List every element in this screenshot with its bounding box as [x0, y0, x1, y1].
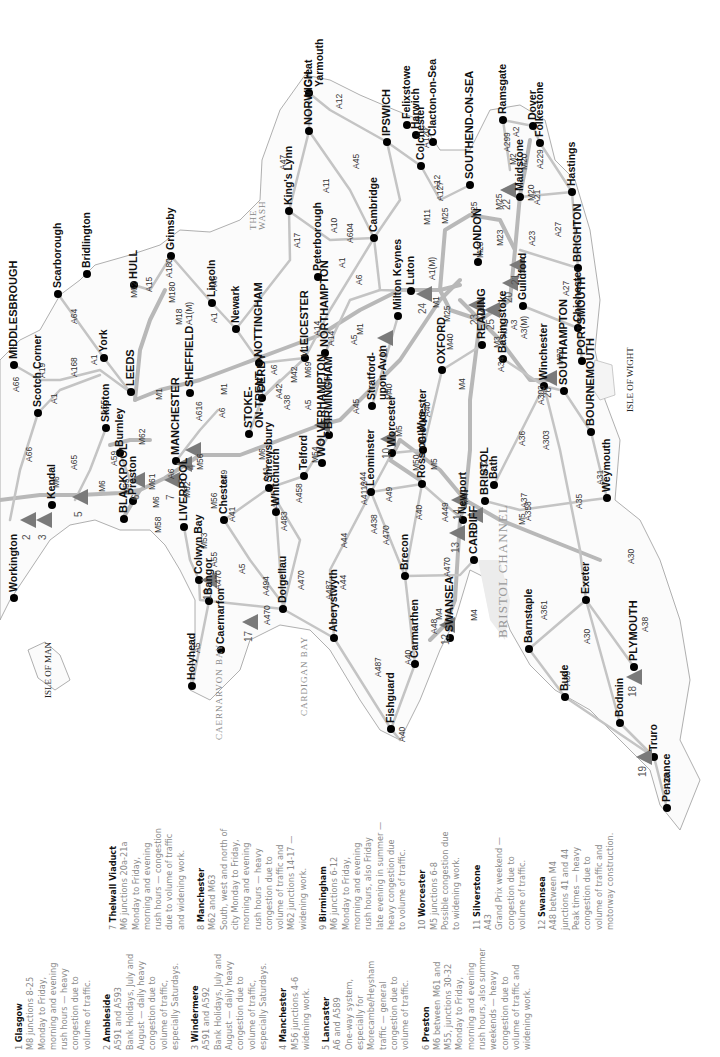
road-label: A361: [540, 600, 549, 620]
congestion-triangle-icon: [449, 525, 465, 541]
city-dot-icon: [536, 139, 544, 147]
road-label: A1(M): [428, 257, 437, 280]
city-label-hull: HULL: [128, 250, 139, 279]
city-dot-icon: [300, 472, 308, 480]
road-label: A23: [528, 231, 537, 246]
city-dot-icon: [474, 258, 482, 266]
road-label: A49: [385, 487, 394, 502]
junction-number: 12: [441, 634, 451, 645]
road-label: A470: [297, 570, 306, 590]
road-label: M69: [304, 361, 313, 378]
city-dot-icon: [383, 138, 391, 146]
junction-number: 17: [244, 631, 254, 642]
road-label: M23: [496, 229, 505, 246]
congestion-triangle-icon: [377, 330, 393, 346]
road-label: M4: [458, 378, 467, 390]
road-label: A470: [443, 557, 452, 577]
city-label-sheffield: SHEFFIELD: [184, 326, 195, 387]
city-dot-icon: [285, 207, 293, 215]
city-label-workington: Workington: [8, 534, 19, 592]
road-label: A30: [627, 549, 636, 564]
sea-label: THE WASH: [249, 200, 267, 230]
road-label: A6: [355, 275, 364, 285]
city-dot-icon: [54, 290, 62, 298]
city-dot-icon: [499, 116, 507, 124]
city-dot-icon: [387, 725, 395, 733]
city-label-york: York: [98, 329, 109, 352]
city-label-basingstoke: Basingstoke: [497, 291, 508, 353]
road-label: A66: [12, 377, 21, 392]
city-dot-icon: [466, 181, 474, 189]
road-label: M58: [154, 516, 163, 533]
city-label-luton: Luton: [405, 256, 416, 285]
city-label-lincoln: Lincoln: [206, 260, 217, 297]
road-label: A15: [145, 277, 154, 292]
city-label-milton-keynes: Milton Keynes: [392, 239, 403, 310]
city-label-penzance: Penzance: [661, 754, 672, 802]
road-label: A616: [195, 401, 204, 421]
road-label: A34: [497, 357, 506, 372]
road-label: A458: [295, 483, 304, 503]
city-label-leicester: LEICESTER: [299, 290, 310, 352]
city-dot-icon: [48, 501, 56, 509]
city-label-carmarthen: Carmarthen: [409, 599, 420, 658]
city-dot-icon: [127, 388, 135, 396]
road-label: A5: [238, 564, 247, 574]
city-label-scarborough: Scarborough: [52, 223, 63, 288]
city-dot-icon: [34, 409, 42, 417]
junction-number: 19: [638, 766, 648, 777]
city-label-bournemouth: BOURNEMOUTH: [585, 338, 596, 426]
road-label: A470: [263, 605, 272, 625]
road-label: A1: [50, 394, 59, 404]
city-label-bude: Bude: [559, 665, 570, 691]
road-label: A27: [554, 222, 563, 237]
road-label: A66: [25, 447, 34, 462]
city-label-cambridge: Cambridge: [368, 177, 379, 232]
city-label-middlesbrough: MIDDLESBROUGH: [8, 261, 19, 359]
road-label: A229: [536, 149, 545, 169]
road-label: A35: [575, 494, 584, 509]
city-label-wolverhampton: WOLVERHAMPTON: [316, 354, 327, 457]
road-label: A1: [90, 355, 99, 365]
city-dot-icon: [180, 523, 188, 531]
city-label-leeds: LEEDS: [125, 349, 136, 386]
junction-number: 24: [418, 303, 428, 314]
road-label: M1: [432, 296, 441, 308]
road-label: M1: [220, 383, 229, 395]
city-dot-icon: [102, 424, 110, 432]
city-label-northampton: NORTHAMPTON: [319, 260, 330, 347]
city-label-dolgellau: Dolgellau: [277, 556, 288, 603]
road-label: A168: [70, 357, 79, 377]
legend-item-manchester-m62: 8 ManchesterM62 and M63 South, west and …: [196, 780, 309, 930]
road-label: M40: [446, 333, 455, 350]
road-label: A30: [583, 629, 592, 644]
road-label: M25: [495, 193, 504, 210]
uk-congestion-map: 2356784161791011242320212526141513121819…: [0, 0, 720, 1057]
city-dot-icon: [305, 127, 313, 135]
legend-item-thelwall-viaduct: 7 Thelwall ViaductM6 junctions 20a-21a M…: [108, 780, 187, 930]
sea-label: BRISTOL CHANNEL: [496, 504, 509, 638]
road-label: A36: [518, 431, 527, 446]
city-label-telford: Telford: [298, 435, 309, 470]
city-dot-icon: [83, 270, 91, 278]
sea-label: CARDIGAN BAY: [300, 636, 309, 716]
city-label-nottingham: NOTTINGHAM: [253, 282, 264, 357]
city-dot-icon: [470, 556, 478, 564]
city-label-ross-on-wye: Ross-on-Wye: [416, 411, 427, 478]
city-label-bridlington: Bridlington: [81, 212, 92, 268]
road-label: M5: [518, 513, 527, 525]
road-label: A38: [641, 617, 650, 632]
city-label-aberystwyth: Aberystwyth: [328, 569, 339, 632]
city-label-folkestone: Folkestone: [534, 82, 545, 137]
city-label-derby: DERBY: [256, 353, 267, 392]
road-label: A494: [262, 576, 271, 596]
junction-number: 13: [451, 542, 461, 553]
city-label-maidstone: Maidstone: [514, 139, 525, 191]
road-label: M1: [155, 388, 164, 400]
city-dot-icon: [368, 402, 376, 410]
legend-item-birmingham: 9 BirminghamM6 junctions 6-12 Monday to …: [318, 780, 408, 930]
road-label: A604: [346, 223, 355, 243]
road-label: A40: [415, 505, 424, 520]
road-label: A470: [382, 525, 391, 545]
city-dot-icon: [245, 430, 253, 438]
